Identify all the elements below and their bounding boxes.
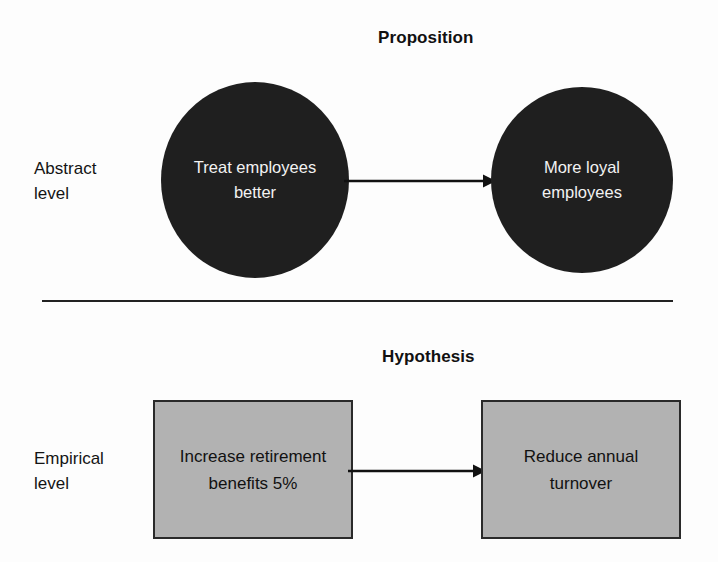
section-divider [42,300,673,302]
arrow-proposition-connector [344,174,496,188]
empirical-level-label-line1: Empirical [34,446,104,471]
node-reduce-annual-turnover-line1: Reduce annual [524,443,638,470]
node-increase-retirement-benefits: Increase retirement benefits 5% [153,400,353,539]
node-more-loyal-employees: More loyal employees [491,87,673,273]
node-more-loyal-employees-line2: employees [542,180,622,205]
abstract-level-label: Abstract level [34,156,96,206]
node-more-loyal-employees-text: More loyal employees [532,155,632,205]
node-treat-employees-better-line1: Treat employees [194,155,316,180]
node-reduce-annual-turnover: Reduce annual turnover [481,400,681,539]
empirical-level-label-line2: level [34,471,104,496]
abstract-level-label-line1: Abstract [34,156,96,181]
node-increase-retirement-benefits-text: Increase retirement benefits 5% [180,443,326,497]
abstract-level-label-line2: level [34,181,96,206]
node-more-loyal-employees-line1: More loyal [542,155,622,180]
node-treat-employees-better: Treat employees better [161,82,349,278]
node-reduce-annual-turnover-text: Reduce annual turnover [524,443,638,497]
node-increase-retirement-benefits-line1: Increase retirement [180,443,326,470]
proposition-title: Proposition [378,28,474,48]
node-increase-retirement-benefits-line2: benefits 5% [180,470,326,497]
empirical-level-label: Empirical level [34,446,104,496]
arrow-hypothesis-connector [348,464,486,478]
node-treat-employees-better-line2: better [194,180,316,205]
node-reduce-annual-turnover-line2: turnover [524,470,638,497]
node-treat-employees-better-text: Treat employees better [184,155,326,205]
diagram-canvas: Proposition Abstract level Treat employe… [0,0,718,562]
hypothesis-title: Hypothesis [382,347,475,367]
